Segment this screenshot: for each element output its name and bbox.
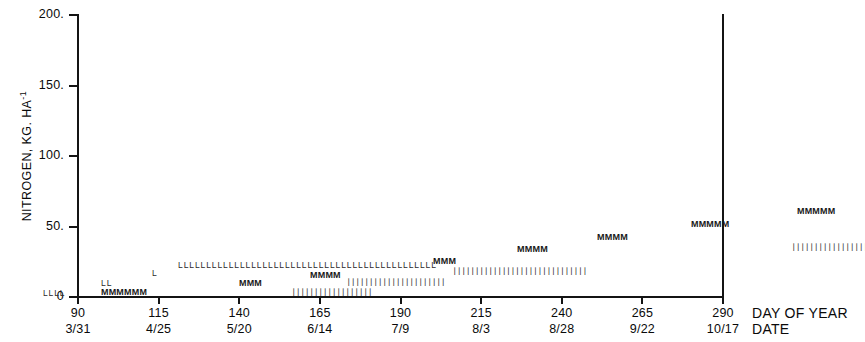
data-series-run-l: LL [101,280,112,290]
x-axis-tick [722,297,724,304]
data-series-run-hatch: |||||||||||||||||||||||||||||| [452,267,587,277]
x-axis-date-label: 4/25 [146,322,171,336]
x-axis-tick [158,297,160,304]
x-axis-subtitle: DATE [752,321,790,337]
plot-right-border [722,14,724,298]
data-series-run-m: MMMM [310,271,341,281]
y-axis-tick-label: 100. [39,148,64,162]
x-axis-tick [400,297,402,304]
data-series-run-m: MMMM [517,246,548,256]
x-axis-date-label: 9/22 [630,322,655,336]
y-axis-tick [69,85,78,87]
x-axis-tick [77,297,79,304]
x-axis-tick [480,297,482,304]
y-axis-tick-label: 50. [46,219,64,233]
data-series-run-hatch: |||||||||||||||||||||| [346,278,445,288]
x-axis-tick-label: 90 [71,306,85,320]
x-axis-title: DAY OF YEAR [752,305,848,321]
data-series-run-m: MMMM [597,233,628,243]
x-axis-tick-label: 190 [390,306,411,320]
x-axis-date-label: 8/28 [549,322,574,336]
x-axis-tick-label: 290 [712,306,733,320]
y-axis-tick-label: 150. [39,78,64,92]
x-axis-tick-label: 240 [551,306,572,320]
y-axis-tick [69,155,78,157]
data-series-run-hatch: ||||||||||||||||||||||||||||||||||||||||… [791,243,865,253]
x-axis-date-label: 6/14 [307,322,332,336]
y-axis-title-exponent: -1 [18,91,28,100]
y-axis-tick-label: 200. [39,7,64,21]
data-series-run-l: L [152,270,158,280]
nitrogen-uptake-chart: NITROGEN, KG. HA-1 050.100.150.200. 903/… [0,0,865,342]
y-axis-title: NITROGEN, KG. HA-1 [18,61,34,251]
x-axis-tick [641,297,643,304]
x-axis-tick-label: 115 [148,306,169,320]
data-series-run-m: MMMMM [797,208,835,218]
y-axis-title-text: NITROGEN, KG. HA [20,100,34,222]
y-axis-tick [69,14,78,16]
data-series-run-m: MMM [433,257,456,267]
data-series-run-m: MMM [239,280,262,290]
x-axis-tick-label: 265 [632,306,653,320]
y-axis-tick [69,226,78,228]
x-axis-date-label: 3/31 [65,322,90,336]
x-axis-date-label: 7/9 [392,322,410,336]
x-axis-tick [561,297,563,304]
y-axis-tick-label: 0 [57,289,64,303]
data-series-run-l: LLLLLLLLLLLLLLLLLLLLLLLLLLLLLLLLLLLLLLLL… [178,261,437,271]
x-axis-date-label: 8/3 [472,322,490,336]
plot-data-area: MMMMMMMMMMMMMMMMMMMMMMMMMMMMMMMMMMMMMMMM… [0,0,865,342]
x-axis-tick-label: 165 [309,306,330,320]
x-axis-tick-label: 215 [470,306,491,320]
x-axis-date-label: 10/17 [707,322,739,336]
x-axis-tick [238,297,240,304]
x-axis-tick-label: 140 [229,306,250,320]
x-axis-date-label: 5/20 [227,322,252,336]
x-axis-tick [319,297,321,304]
